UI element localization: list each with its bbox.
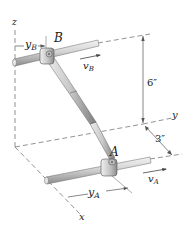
dimension-yA [68, 176, 132, 197]
collar-A-label: A [110, 146, 119, 158]
vA-label: vA [148, 174, 159, 186]
y-axis-label: y [172, 110, 178, 120]
rod-AB [45, 56, 115, 160]
x-axis-label: x [79, 212, 85, 222]
rod-collar-diagram: z y x B A yB yA vB vA 6″ 3″ [0, 0, 193, 229]
z-axis-label: z [12, 18, 17, 27]
collar-B [40, 48, 54, 64]
shaft-A [45, 157, 152, 184]
dimension-6in-label: 6″ [147, 78, 157, 88]
lower-reference-line [150, 154, 182, 159]
velocity-arrow-B [80, 54, 101, 59]
collar-B-label: B [54, 32, 63, 44]
collar-A [101, 159, 117, 176]
velocity-arrow-A [143, 168, 167, 173]
dimension-6in [141, 36, 144, 123]
base-plane-edge [15, 124, 143, 147]
yB-label: yB [25, 39, 37, 52]
y-axis [143, 118, 172, 124]
yA-label: yA [88, 187, 100, 200]
vB-label: vB [83, 61, 94, 73]
dimension-3in-label: 3″ [155, 134, 165, 144]
